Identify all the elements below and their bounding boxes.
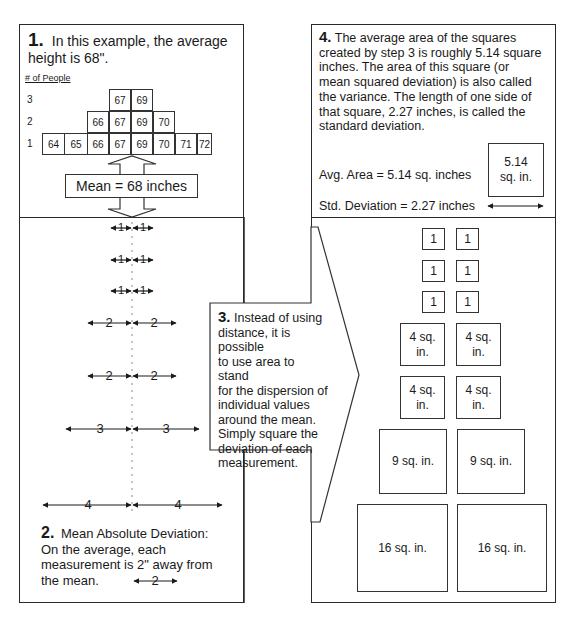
dev-label: 1 bbox=[140, 284, 146, 296]
step3-line: to use area to stand bbox=[218, 355, 294, 384]
square-4: 4 sq.in. bbox=[400, 323, 445, 366]
avg-square-unit: sq. in. bbox=[500, 170, 532, 184]
square-4-line2: in. bbox=[472, 345, 485, 359]
dev-label: 3 bbox=[96, 421, 103, 436]
square-1: 1 bbox=[456, 260, 479, 282]
step3-line: measurement. bbox=[218, 456, 298, 470]
dev-label: 2 bbox=[150, 315, 157, 330]
square-1: 1 bbox=[456, 228, 479, 250]
square-4-line2: in. bbox=[416, 398, 429, 412]
step3-line: around the mean. bbox=[218, 413, 316, 427]
step2-text: 2. Mean Absolute Deviation: On the avera… bbox=[41, 525, 241, 588]
square-4: 4 sq.in. bbox=[456, 323, 501, 366]
step4-line: mean squared deviation) is also called bbox=[319, 75, 532, 89]
avg-area-label: Avg. Area = 5.14 sq. inches bbox=[319, 168, 471, 182]
step2-line2: measurement is 2" away from bbox=[41, 557, 213, 572]
square-4-line1: 4 sq. bbox=[465, 330, 491, 344]
std-dev-label: Std. Deviation = 2.27 inches bbox=[319, 199, 475, 213]
square-1: 1 bbox=[422, 228, 445, 250]
square-4-line1: 4 sq. bbox=[409, 383, 435, 397]
avg-square-value: 5.14 bbox=[504, 155, 527, 169]
mad-arrow-label: 2 bbox=[151, 573, 158, 588]
step3-line: deviation of each bbox=[218, 442, 313, 456]
square-1: 1 bbox=[422, 291, 445, 313]
step2-line1: On the average, each bbox=[41, 542, 166, 557]
step3-line: Simply square the bbox=[218, 427, 318, 441]
step4-line: created by step 3 is roughly 5.14 square bbox=[319, 46, 541, 60]
square-1: 1 bbox=[422, 260, 445, 282]
square-4-line1: 4 sq. bbox=[409, 330, 435, 344]
square-16: 16 sq. in. bbox=[357, 504, 448, 592]
avg-area-square: 5.14 sq. in. bbox=[488, 143, 544, 197]
dev-label: 1 bbox=[140, 221, 146, 233]
mean-box: Mean = 68 inches bbox=[65, 174, 198, 198]
step4-line: that square, 2.27 inches, is called the bbox=[319, 105, 525, 119]
step2-title: Mean Absolute Deviation: bbox=[61, 526, 208, 541]
square-4-line2: in. bbox=[472, 398, 485, 412]
step4-line: the variance. The length of one side of bbox=[319, 90, 531, 104]
step3-text: 3. Instead of using distance, it is poss… bbox=[218, 310, 328, 471]
dev-label: 2 bbox=[105, 315, 112, 330]
square-4: 4 sq.in. bbox=[456, 376, 501, 419]
square-16: 16 sq. in. bbox=[457, 504, 547, 592]
square-9: 9 sq. in. bbox=[457, 429, 525, 494]
step4-text: 4. The average area of the squares creat… bbox=[319, 30, 554, 134]
square-9: 9 sq. in. bbox=[379, 429, 447, 494]
step4-line: The average area of the squares bbox=[335, 31, 516, 45]
square-4: 4 sq.in. bbox=[400, 376, 445, 419]
dev-label: 1 bbox=[118, 284, 124, 296]
dev-label: 3 bbox=[162, 421, 169, 436]
step3-line: individual values bbox=[218, 398, 310, 412]
square-4-line2: in. bbox=[416, 345, 429, 359]
dev-label: 2 bbox=[105, 368, 112, 383]
step4-line: standard deviation. bbox=[319, 119, 425, 133]
step3-line: distance, it is possible bbox=[218, 326, 290, 355]
up-arrow-icon bbox=[108, 156, 156, 174]
step3-line: Instead of using bbox=[234, 311, 322, 325]
step2-line3: the mean. bbox=[41, 573, 99, 588]
dev-label: 1 bbox=[118, 253, 124, 265]
step2-number: 2. bbox=[41, 524, 54, 541]
step3-number: 3. bbox=[218, 308, 231, 325]
dev-label: 4 bbox=[84, 497, 91, 512]
down-arrow-icon bbox=[108, 197, 156, 217]
dev-label: 1 bbox=[118, 221, 124, 233]
square-1: 1 bbox=[456, 291, 479, 313]
step4-line: inches. The area of this square (or bbox=[319, 60, 509, 74]
dev-label: 2 bbox=[150, 368, 157, 383]
dev-label: 1 bbox=[140, 253, 146, 265]
step3-line: for the dispersion of bbox=[218, 384, 328, 398]
square-4-line1: 4 sq. bbox=[465, 383, 491, 397]
dev-label: 4 bbox=[174, 497, 181, 512]
step4-number: 4. bbox=[319, 28, 332, 45]
